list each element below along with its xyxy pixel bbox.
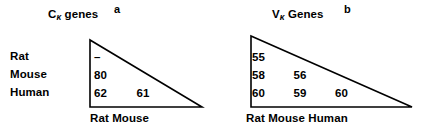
row-label-human: Human	[10, 83, 82, 101]
panel-a-matrix: – 80 62 61	[94, 47, 174, 101]
table-row: 60 59 60	[252, 83, 372, 101]
table-row: 58 56	[252, 65, 372, 83]
cell-a-r1c0: 80	[94, 66, 132, 84]
figure-root: Cκ genes a Rat Mouse Human – 80 62 61 Ra…	[0, 0, 432, 138]
table-row: –	[94, 47, 174, 65]
cell-b-r0c0: 55	[252, 48, 289, 66]
panel-a: Cκ genes a Rat Mouse Human – 80 62 61 Ra…	[0, 0, 216, 138]
panel-b-axis-label: Rat Mouse Human	[246, 113, 348, 125]
table-row: 62 61	[94, 83, 174, 101]
panel-b: Vκ Genes b 55 58 56 60 59 60 Rat Mouse H…	[216, 0, 432, 138]
cell-b-r2c2: 60	[335, 84, 372, 102]
cell-b-r2c0: 60	[252, 84, 289, 102]
cell-a-r0c0: –	[94, 48, 132, 66]
panel-a-axis-label: Rat Mouse	[90, 113, 149, 125]
cell-a-r2c1: 61	[136, 84, 174, 102]
table-row: 80	[94, 65, 174, 83]
panel-b-matrix: 55 58 56 60 59 60	[252, 47, 372, 101]
cell-a-r2c0: 62	[94, 84, 132, 102]
table-row: 55	[252, 47, 372, 65]
cell-b-r1c0: 58	[252, 66, 289, 84]
panel-a-row-labels: Rat Mouse Human	[10, 47, 82, 101]
row-label-rat: Rat	[10, 47, 82, 65]
cell-b-r1c1: 56	[293, 66, 330, 84]
cell-b-r2c1: 59	[293, 84, 330, 102]
row-label-mouse: Mouse	[10, 65, 82, 83]
